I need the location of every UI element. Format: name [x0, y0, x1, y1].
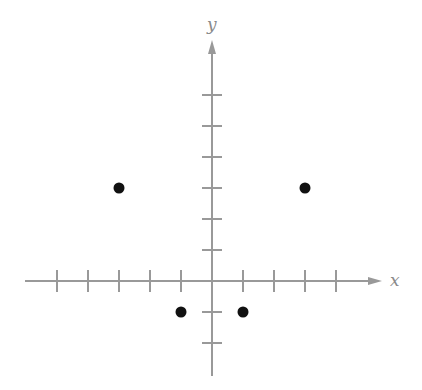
y-axis-label: y [206, 14, 217, 34]
y-axis-arrow-icon [208, 40, 216, 54]
data-point [114, 183, 125, 194]
x-axis-arrow-icon [368, 277, 382, 285]
coordinate-plane: x y [0, 0, 422, 390]
data-point [238, 307, 249, 318]
data-point [176, 307, 187, 318]
x-axis-label: x [390, 270, 400, 290]
data-point [300, 183, 311, 194]
axes [25, 40, 382, 376]
tick-marks [57, 95, 336, 343]
